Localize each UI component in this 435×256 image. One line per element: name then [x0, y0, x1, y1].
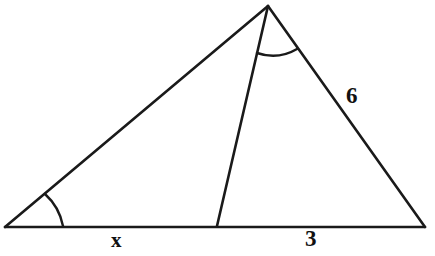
- base-right-segment-label: 3: [305, 227, 317, 250]
- geometry-figure: x 3 6: [0, 0, 435, 256]
- right-side-line: [268, 6, 425, 227]
- left-base-angle-arc: [45, 194, 63, 226]
- apex-angle-arc: [257, 49, 297, 56]
- right-side-length-label: 6: [346, 84, 358, 107]
- base-left-segment-label: x: [111, 230, 122, 251]
- geometry-canvas: [0, 0, 435, 256]
- cevian-line: [217, 6, 268, 226]
